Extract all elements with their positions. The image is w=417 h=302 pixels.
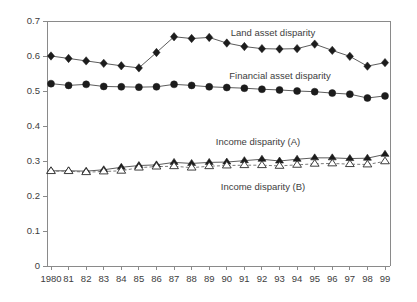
data-point-marker — [64, 167, 73, 174]
data-point-marker — [258, 44, 265, 52]
data-point-marker — [83, 57, 90, 65]
x-tick-label: 84 — [116, 273, 127, 284]
data-point-marker — [381, 157, 390, 164]
data-point-marker — [258, 161, 267, 168]
data-point-marker — [153, 48, 160, 56]
line-chart: 00.10.20.30.40.50.60.7 19808182838485868… — [0, 0, 417, 302]
x-tick-label: 91 — [239, 273, 250, 284]
data-point-marker — [48, 80, 55, 87]
x-tick-label: 87 — [169, 273, 180, 284]
data-point-marker — [206, 83, 213, 90]
data-point-marker — [364, 62, 371, 70]
data-point-marker — [346, 91, 353, 98]
data-point-marker — [241, 85, 248, 92]
series-annotations: Land asset disparityFinancial asset disp… — [216, 27, 331, 192]
x-tick-label: 1980 — [40, 273, 61, 284]
data-point-marker — [118, 83, 125, 90]
chart-container: 00.10.20.30.40.50.60.7 19808182838485868… — [0, 0, 417, 302]
y-tick-label: 0.2 — [27, 190, 40, 201]
series-annotation-label: Land asset disparity — [231, 27, 316, 38]
data-point-marker — [241, 42, 248, 50]
data-point-marker — [258, 86, 265, 93]
x-tick-label: 81 — [63, 273, 74, 284]
data-point-marker — [135, 64, 142, 72]
data-point-marker — [381, 150, 389, 156]
y-tick-label: 0 — [35, 260, 40, 271]
data-point-marker — [311, 88, 318, 95]
series-annotation-label: Income disparity (A) — [216, 136, 300, 147]
data-point-marker — [293, 161, 302, 168]
data-point-marker — [100, 59, 107, 67]
x-tick-label: 86 — [151, 273, 162, 284]
y-tick-label: 0.1 — [27, 225, 40, 236]
data-point-marker — [345, 160, 354, 167]
data-point-marker — [363, 160, 372, 167]
y-tick-label: 0.7 — [27, 15, 40, 26]
data-point-marker — [329, 46, 336, 54]
data-point-marker — [294, 88, 301, 95]
data-point-marker — [311, 40, 318, 48]
data-point-marker — [276, 86, 283, 93]
data-point-marker — [310, 160, 319, 167]
data-point-marker — [364, 95, 371, 102]
x-tick-label: 95 — [309, 273, 320, 284]
y-axis-ticks: 00.10.20.30.40.50.60.7 — [27, 15, 47, 271]
x-tick-label: 99 — [380, 273, 391, 284]
x-tick-label: 85 — [134, 273, 145, 284]
data-point-marker — [294, 44, 301, 52]
data-point-marker — [382, 92, 389, 99]
data-point-marker — [100, 83, 107, 90]
series-markers — [47, 33, 390, 175]
y-tick-label: 0.6 — [27, 50, 40, 61]
data-point-marker — [83, 81, 90, 88]
x-tick-label: 93 — [274, 273, 285, 284]
x-tick-label: 98 — [362, 273, 373, 284]
data-point-marker — [171, 81, 178, 88]
data-point-marker — [206, 33, 213, 41]
x-tick-label: 92 — [257, 273, 268, 284]
data-point-marker — [188, 34, 195, 42]
x-tick-label: 96 — [327, 273, 338, 284]
data-point-marker — [276, 45, 283, 53]
x-tick-label: 97 — [345, 273, 356, 284]
x-tick-label: 89 — [204, 273, 215, 284]
data-point-marker — [65, 54, 72, 62]
data-point-marker — [328, 159, 337, 166]
y-tick-label: 0.3 — [27, 155, 40, 166]
data-point-marker — [118, 62, 125, 70]
x-axis-ticks: 1980818283848586878889909192939495969798… — [40, 266, 390, 284]
data-point-marker — [153, 83, 160, 90]
x-tick-label: 90 — [222, 273, 233, 284]
series-lines — [51, 37, 385, 172]
x-tick-label: 83 — [98, 273, 109, 284]
x-tick-label: 94 — [292, 273, 303, 284]
x-tick-label: 88 — [186, 273, 197, 284]
data-point-marker — [223, 39, 230, 47]
y-tick-label: 0.5 — [27, 85, 40, 96]
y-tick-label: 0.4 — [27, 120, 40, 131]
series-annotation-label: Financial asset disparity — [229, 70, 331, 81]
data-point-marker — [47, 167, 56, 174]
data-point-marker — [47, 52, 54, 60]
data-point-marker — [188, 82, 195, 89]
data-point-marker — [170, 33, 177, 41]
data-point-marker — [329, 90, 336, 97]
data-point-marker — [346, 52, 353, 60]
data-point-marker — [223, 84, 230, 91]
series-annotation-label: Income disparity (B) — [221, 181, 305, 192]
data-point-marker — [381, 58, 388, 66]
data-point-marker — [65, 82, 72, 89]
data-point-marker — [135, 84, 142, 91]
x-tick-label: 82 — [81, 273, 92, 284]
